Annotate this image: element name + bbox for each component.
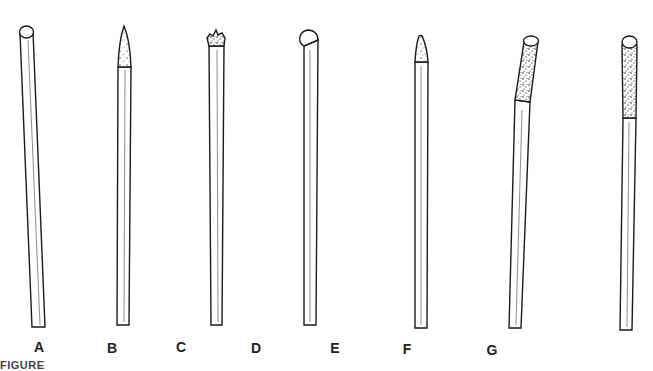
label-a: A [34, 339, 44, 355]
figure-caption: FIGURE [0, 359, 45, 371]
electrode-b [117, 26, 131, 325]
electrode-f-tip [524, 36, 539, 46]
electrode-c-tip [207, 30, 225, 46]
electrode-c [207, 30, 225, 325]
label-b: B [107, 340, 117, 356]
electrode-a-tip [20, 26, 34, 38]
electrode-a [20, 26, 46, 327]
electrode-f-shaft [509, 100, 530, 328]
label-g: G [487, 342, 498, 358]
electrode-e [415, 35, 428, 328]
label-e: E [330, 340, 339, 356]
electrode-f-coating [515, 42, 538, 102]
electrode-d-shaft [304, 40, 318, 325]
electrode-d [300, 30, 318, 325]
label-c: C [176, 339, 186, 355]
electrode-a-shaft [20, 32, 45, 327]
electrode-c-shaft [209, 46, 224, 325]
electrode-e-tip [415, 35, 428, 62]
electrode-b-tip [118, 26, 131, 67]
label-d: D [251, 340, 261, 356]
electrode-g-coating [622, 45, 637, 118]
electrode-g-tip [622, 36, 637, 48]
label-f: F [403, 341, 412, 357]
electrode-g [620, 36, 637, 330]
electrode-e-shaft [415, 62, 428, 328]
electrode-f [509, 36, 539, 328]
